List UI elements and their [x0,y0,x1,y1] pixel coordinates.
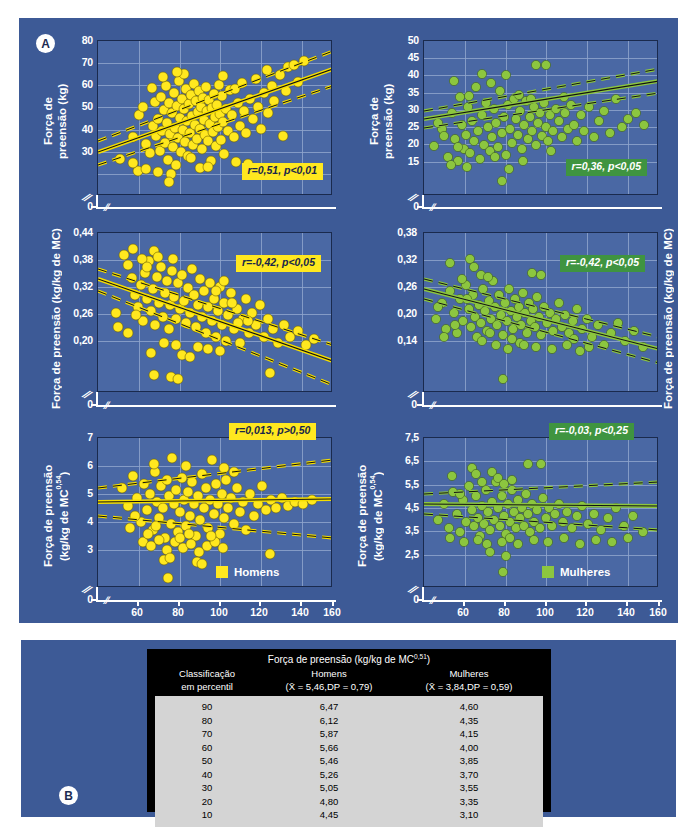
stat-annotation: r=0,013, p>0,50 [229,423,316,440]
y-tick: 35 [393,86,419,98]
y-tick: 50 [67,100,93,112]
y-tick: 5 [67,487,93,499]
y-tick: 80 [67,34,93,46]
y-axis-label: Força de preensão (kg/kg de MC) [661,226,679,411]
y-tick: 30 [393,103,419,115]
y-tick: 70 [67,56,93,68]
x-axis-line [422,207,662,209]
y-tick: 0 [57,398,93,410]
y-tick: 0 [387,593,419,605]
table-cell-percentil: 50 [155,754,259,767]
y-tick: 2,5 [387,548,419,560]
y-tick: 30 [67,145,93,157]
x-tick: 80 [498,606,510,618]
stat-annotation: r=0,36, p<0,05 [566,159,647,176]
table-cell-percentil: 30 [155,781,259,794]
y-tick: 0,32 [379,253,417,265]
y-tick: 0 [67,593,93,605]
table-cell-percentil: 60 [155,741,259,754]
x-tick: 160 [649,606,667,618]
plot-area: Homens [97,437,332,587]
stat-annotation: r=-0,42, p<0,05 [236,255,321,272]
stat-text: r=0,013, p>0,50 [235,424,310,436]
plot-area: r=-0,42, p<0,05 [97,232,332,392]
col2-header-line2: (X̄ = 5,46,DP = 0,79) [259,681,399,694]
table-row: 104,453,10 [155,808,543,821]
table-row: 705,874,15 [155,727,543,740]
axis-break-icon: ∕∕ [431,202,435,213]
table-cell-mulheres: 3,35 [399,795,539,808]
table-title-suffix: ) [427,654,430,665]
chart-women-ratio: Força de preensão (kg/kg de MC) [349,222,679,427]
plot-area: Mulheres [423,437,658,587]
y-tick: 50 [393,34,419,46]
axis-break-icon: ∕∕ [105,202,109,213]
table-body: 906,474,60806,124,35705,874,15605,664,00… [155,696,543,826]
table-cell-homens: 4,45 [259,808,399,821]
table-row: 305,053,55 [155,781,543,794]
x-axis-line [422,405,662,407]
y-tick: 0,38 [379,226,417,238]
y-tick: 0,32 [57,280,93,292]
x-axis-line [96,207,336,209]
y-tick: 7,5 [387,431,419,443]
table-cell-percentil: 40 [155,768,259,781]
x-axis-label: Massa corporal (kg) [19,623,349,637]
table-cell-percentil: 80 [155,714,259,727]
table-title-prefix: Força de preensão (kg/kg de MC [268,654,414,665]
x-tick: 140 [617,606,635,618]
chart-women-allometric: Força de preensão (kg/kg de MC0,54) [349,427,679,623]
table-cell-percentil: 90 [155,700,259,713]
col3-header-line2: (X̄ = 3,84,DP = 0,59) [399,681,539,694]
table-cell-mulheres: 4,00 [399,741,539,754]
stat-text: r=0,51, p<0,01 [248,164,317,176]
table-cell-homens: 4,80 [259,795,399,808]
table-title-exponent: 0,51 [414,653,427,660]
y-tick: 45 [393,51,419,63]
panel-b-tag: B [59,786,78,805]
col2-header-line1: Homens [259,668,399,681]
x-tick: 80 [172,606,184,618]
table-title: Força de preensão (kg/kg de MC0,51) [155,653,543,668]
chart-men-allometric: Força de preensão (kg/kg de MC0,54) [19,427,349,623]
stat-text: r=-0,42, p<0,05 [566,256,639,268]
y-tick: 0,26 [379,280,417,292]
table-row: 605,664,00 [155,741,543,754]
y-tick: 0,44 [57,226,93,238]
y-tick: 4,5 [387,501,419,513]
panel-a: A Força de preensão (kg) [19,18,678,623]
stat-annotation: r=-0,03, p<0,25 [549,423,634,440]
y-tick: 0 [67,200,93,212]
y-tick: 40 [393,68,419,80]
col1-header-line1: Classificação [155,668,259,681]
table-row: 505,463,85 [155,754,543,767]
scatter-layer [98,438,332,587]
y-tick: 20 [393,137,419,149]
table-cell-mulheres: 3,55 [399,781,539,794]
scatter-layer [424,438,658,587]
table-header: Força de preensão (kg/kg de MC0,51) Clas… [155,653,543,693]
x-tick: 120 [576,606,594,618]
x-tick: 60 [131,606,143,618]
y-tick: 60 [67,78,93,90]
y-tick: 4 [67,515,93,527]
y-tick: 6,5 [387,454,419,466]
legend-men: Homens [216,566,279,578]
legend-swatch-men [216,566,228,578]
table-cell-mulheres: 3,70 [399,768,539,781]
y-tick: 6 [67,459,93,471]
y-tick: 5,5 [387,478,419,490]
table-cell-percentil: 10 [155,808,259,821]
y-tick: 0,20 [379,307,417,319]
y-tick: 0,38 [57,253,93,265]
table-cell-homens: 6,12 [259,714,399,727]
legend-swatch-women [542,566,554,578]
table-cell-homens: 5,05 [259,781,399,794]
x-axis-label: Massa corporal (kg) [349,623,679,637]
x-tick: 100 [210,606,228,618]
legend-label-women: Mulheres [560,566,611,578]
plot-area: r=0,51, p<0,01 [97,40,332,195]
y-tick: 0,20 [57,334,93,346]
table-cell-homens: 5,66 [259,741,399,754]
stat-text: r=-0,03, p<0,25 [555,424,628,436]
